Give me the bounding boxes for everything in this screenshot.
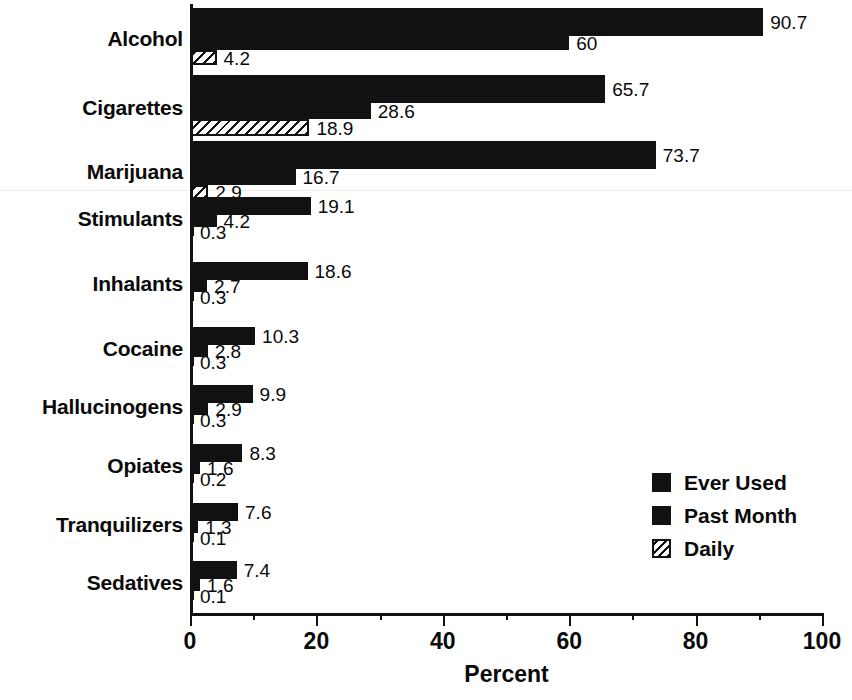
x-axis-tick-label: 0 xyxy=(184,628,197,655)
y-axis-line xyxy=(190,4,193,616)
bar-value-label: 19.1 xyxy=(318,196,355,218)
bar-value-label: 18.9 xyxy=(316,118,353,140)
legend-item: Ever Used xyxy=(652,466,797,499)
x-axis-tick-minor xyxy=(253,613,255,620)
bar-value-label: 0.3 xyxy=(200,287,226,309)
bar-ever-used xyxy=(190,75,605,103)
bar-value-label: 0.3 xyxy=(200,352,226,374)
x-axis-tick-minor xyxy=(632,613,634,620)
bar-value-label: 65.7 xyxy=(612,79,649,101)
bar-ever-used xyxy=(190,141,656,169)
legend-swatch-hatch xyxy=(652,539,671,558)
bar-daily xyxy=(190,50,217,65)
bar-value-label: 73.7 xyxy=(663,145,700,167)
bar-value-label: 0.3 xyxy=(200,410,226,432)
category-label: Stimulants xyxy=(0,207,183,231)
category-label: Sedatives xyxy=(0,571,183,595)
legend-label: Daily xyxy=(684,537,734,561)
bar-value-label: 0.3 xyxy=(200,222,226,244)
category-label: Alcohol xyxy=(0,27,183,51)
category-label: Tranquilizers xyxy=(0,513,183,537)
x-axis-tick-minor xyxy=(380,613,382,620)
bar-value-label: 60 xyxy=(576,33,597,55)
x-axis-tick-major xyxy=(569,613,571,626)
bar-value-label: 0.1 xyxy=(200,528,226,550)
category-label: Hallucinogens xyxy=(0,395,183,419)
bar-value-label: 4.2 xyxy=(224,48,250,70)
bar-value-label: 8.3 xyxy=(249,443,275,465)
legend-item: Past Month xyxy=(652,499,797,532)
bar-ever-used xyxy=(190,8,763,36)
x-axis-tick-major xyxy=(822,613,824,626)
x-axis-tick-major xyxy=(190,613,192,626)
legend-swatch-solid xyxy=(652,473,671,492)
legend-item: Daily xyxy=(652,532,797,565)
category-label: Cigarettes xyxy=(0,96,183,120)
x-axis-tick-major xyxy=(696,613,698,626)
bar-value-label: 90.7 xyxy=(770,12,807,34)
category-label: Marijuana xyxy=(0,160,183,184)
bar-value-label: 9.9 xyxy=(260,384,286,406)
legend-label: Ever Used xyxy=(684,471,787,495)
x-axis-title: Percent xyxy=(190,661,823,688)
x-axis-tick-minor xyxy=(506,613,508,620)
bar-chart: AlcoholCigarettesMarijuanaStimulantsInha… xyxy=(0,0,852,700)
legend: Ever UsedPast MonthDaily xyxy=(652,466,797,565)
bar-value-label: 10.3 xyxy=(262,326,299,348)
category-label: Opiates xyxy=(0,454,183,478)
bar-value-label: 0.1 xyxy=(200,586,226,608)
x-axis-tick-major xyxy=(443,613,445,626)
category-label-column: AlcoholCigarettesMarijuanaStimulantsInha… xyxy=(0,0,183,700)
x-axis-tick-label: 60 xyxy=(556,628,582,655)
bar-value-label: 0.2 xyxy=(200,469,226,491)
x-axis-tick-label: 20 xyxy=(304,628,330,655)
x-axis-tick-label: 80 xyxy=(683,628,709,655)
bar-daily xyxy=(190,119,309,136)
bar-value-label: 4.2 xyxy=(224,211,250,233)
bar-past-month xyxy=(190,169,296,185)
bar-value-label: 16.7 xyxy=(303,167,340,189)
bar-value-label: 7.4 xyxy=(244,560,270,582)
x-axis-tick-label: 40 xyxy=(430,628,456,655)
x-axis-tick-label: 100 xyxy=(803,628,841,655)
bar-value-label: 28.6 xyxy=(378,101,415,123)
bar-ever-used xyxy=(190,262,308,280)
legend-swatch-solid xyxy=(652,506,671,525)
legend-label: Past Month xyxy=(684,504,797,528)
category-label: Inhalants xyxy=(0,272,183,296)
x-axis-tick-major xyxy=(316,613,318,626)
bar-value-label: 18.6 xyxy=(315,261,352,283)
bar-ever-used xyxy=(190,197,311,215)
category-label: Cocaine xyxy=(0,337,183,361)
bar-value-label: 7.6 xyxy=(245,502,271,524)
x-axis-tick-minor xyxy=(759,613,761,620)
